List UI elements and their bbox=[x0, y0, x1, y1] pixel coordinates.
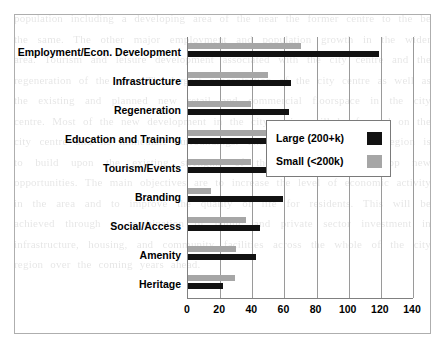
bar-chart: Employment/Econ. DevelopmentInfrastructu… bbox=[15, 15, 430, 333]
bar-large bbox=[188, 196, 283, 202]
chart-figure: Employment/Econ. DevelopmentInfrastructu… bbox=[14, 14, 431, 334]
bar-small bbox=[188, 130, 270, 136]
x-tick-label: 60 bbox=[278, 303, 290, 315]
y-tick-label: Infrastructure bbox=[113, 75, 181, 87]
x-tick-label: 0 bbox=[184, 303, 190, 315]
legend-item-small: Small (<200k) bbox=[276, 152, 382, 170]
bar-large bbox=[188, 80, 291, 86]
bar-small bbox=[188, 188, 211, 194]
x-tick-label: 20 bbox=[213, 303, 225, 315]
bar-small bbox=[188, 159, 251, 165]
y-tick-label: Education and Training bbox=[65, 133, 181, 145]
gridline bbox=[413, 37, 414, 298]
bar-row bbox=[188, 37, 413, 66]
legend-label-large: Large (200+k) bbox=[276, 132, 344, 144]
bar-large bbox=[188, 109, 289, 115]
bar-row bbox=[188, 269, 413, 298]
x-tick-label: 40 bbox=[245, 303, 257, 315]
bar-row bbox=[188, 240, 413, 269]
bar-small bbox=[188, 217, 246, 223]
bar-large bbox=[188, 138, 275, 144]
bar-row bbox=[188, 182, 413, 211]
bar-large bbox=[188, 254, 256, 260]
x-tick-label: 120 bbox=[371, 303, 389, 315]
bar-row bbox=[188, 211, 413, 240]
y-tick-label: Social/Access bbox=[110, 220, 181, 232]
bar-large bbox=[188, 225, 260, 231]
y-tick-label: Regeneration bbox=[114, 104, 181, 116]
y-tick-label: Tourism/Events bbox=[103, 162, 181, 174]
bar-large bbox=[188, 167, 273, 173]
bar-large bbox=[188, 51, 379, 57]
chart-legend: Large (200+k) Small (<200k) bbox=[266, 120, 391, 177]
x-tick-label: 140 bbox=[403, 303, 421, 315]
bar-small bbox=[188, 72, 268, 78]
bar-small bbox=[188, 246, 236, 252]
legend-item-large: Large (200+k) bbox=[276, 129, 382, 147]
bar-small bbox=[188, 101, 251, 107]
bar-large bbox=[188, 283, 223, 289]
x-tick-label: 80 bbox=[310, 303, 322, 315]
y-axis-category-labels: Employment/Econ. DevelopmentInfrastructu… bbox=[21, 37, 185, 299]
y-tick-label: Branding bbox=[135, 191, 181, 203]
y-tick-label: Heritage bbox=[139, 278, 181, 290]
legend-swatch-large bbox=[367, 132, 382, 145]
y-tick-label: Amenity bbox=[140, 249, 181, 261]
y-tick-label: Employment/Econ. Development bbox=[18, 46, 181, 58]
bar-row bbox=[188, 66, 413, 95]
bar-small bbox=[188, 275, 235, 281]
x-tick-label: 100 bbox=[339, 303, 357, 315]
bar-small bbox=[188, 43, 301, 49]
legend-swatch-small bbox=[367, 155, 382, 168]
legend-label-small: Small (<200k) bbox=[276, 155, 343, 167]
x-axis-tick-labels: 020406080100120140 bbox=[187, 303, 413, 319]
